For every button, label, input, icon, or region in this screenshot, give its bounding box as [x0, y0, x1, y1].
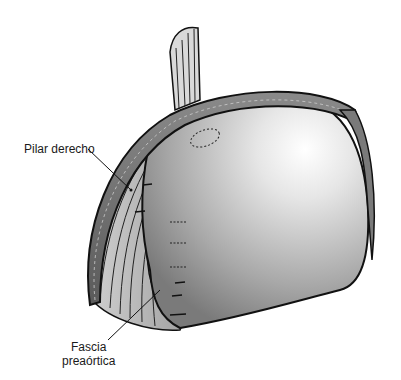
label-pilar-derecho: Pilar derecho [24, 142, 95, 156]
stomach-drawing [0, 0, 401, 380]
label-fascia-line2: preaórtica [62, 354, 115, 368]
anatomical-illustration: Pilar derecho Fascia preaórtica [0, 0, 401, 380]
stomach-fundus [142, 99, 368, 328]
esophagus-strap [170, 27, 200, 110]
label-fascia-line1: Fascia [62, 340, 115, 354]
label-fascia-preaortica: Fascia preaórtica [62, 340, 115, 368]
